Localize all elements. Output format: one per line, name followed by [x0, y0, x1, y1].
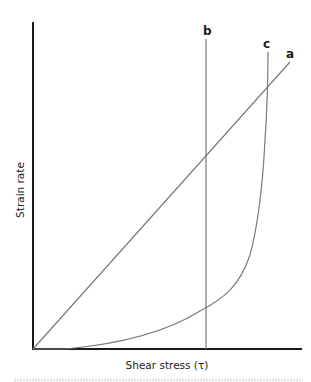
y-axis-label: Strain rate [14, 162, 26, 218]
x-axis-label: Shear stress (τ) [126, 359, 209, 371]
series-c-label: c [263, 37, 270, 51]
series-c-curve [33, 52, 268, 349]
series-a-label: a [286, 47, 294, 61]
series-b-label: b [203, 24, 212, 38]
chart: b c a Shear stress (τ) Strain rate [0, 0, 311, 382]
series-a-line [33, 62, 290, 349]
